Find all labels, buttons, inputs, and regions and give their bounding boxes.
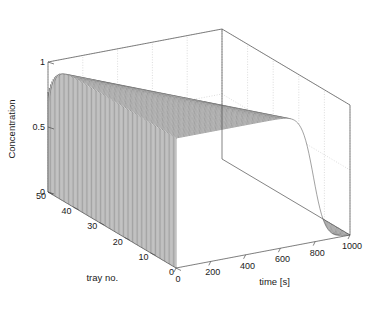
figure-3d-waterfall-plot: 10.505040302010002004006008001000 Concen… (0, 0, 380, 322)
z-tick-label: 1 (40, 57, 45, 67)
x-axis-title: time [s] (259, 276, 290, 287)
x-tick-label: 1000 (342, 241, 362, 251)
y-tick-label: 20 (113, 237, 123, 247)
y-axis-title: tray no. (86, 272, 118, 283)
x-tick-label: 600 (275, 254, 290, 264)
z-axis-title: Concentration (6, 99, 17, 158)
y-tick-label: 10 (138, 252, 148, 262)
x-tick-label: 200 (205, 267, 220, 277)
y-tick-label: 40 (62, 206, 72, 216)
x-tick-label: 400 (240, 261, 255, 271)
z-tick-label: 0.5 (32, 122, 45, 132)
plot-canvas: 10.505040302010002004006008001000 Concen… (0, 0, 380, 322)
y-tick-label: 0 (169, 267, 174, 277)
x-tick-label: 0 (175, 274, 180, 284)
y-tick-label: 30 (87, 221, 97, 231)
x-tick-label: 800 (310, 248, 325, 258)
y-tick-label: 50 (36, 191, 46, 201)
